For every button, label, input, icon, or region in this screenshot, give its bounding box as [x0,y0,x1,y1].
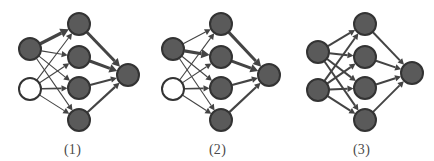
node-layer [307,13,423,131]
edge-arrowhead-icon [61,85,67,91]
edge-arrowhead-icon [208,33,214,40]
edge-arrowhead-icon [66,104,72,111]
node-layer [162,13,280,131]
network-node-hidden-h1 [210,13,232,35]
neural-network-figure: (1) (2) (3) [0,0,434,161]
edge-arrowhead-icon [205,74,212,80]
edge-arrowhead-icon [251,76,258,82]
network-node-output-o1 [117,64,139,86]
network-node-input-i2 [19,78,41,100]
edge-arrowhead-icon [66,33,72,40]
edge-layer [179,29,261,114]
network-edge [373,85,400,112]
edge-arrowhead-icon [61,51,67,57]
edge-arrowhead-icon [205,63,212,69]
edge-arrowhead-icon [110,76,117,82]
network-graph [289,0,434,161]
network-node-hidden-h3 [68,77,90,99]
network-node-hidden-h2 [68,46,90,68]
network-edge [376,61,396,68]
network-node-hidden-h3 [354,77,376,99]
network-node-output-o1 [401,62,423,84]
network-node-hidden-h4 [210,109,232,131]
network-edge [183,95,207,110]
network-edge [87,32,115,61]
network-node-hidden-h3 [210,77,232,99]
network-node-input-i1 [162,38,184,60]
network-edge [232,61,251,68]
network-edge [90,61,110,68]
network-edge [232,80,252,85]
edge-arrowhead-icon [63,75,70,81]
network-node-hidden-h2 [210,46,232,68]
network-edge [40,95,64,110]
network-panel-3: (3) [289,0,434,161]
network-edge [183,32,205,44]
node-layer [19,13,139,131]
network-graph [145,0,290,161]
network-node-hidden-h1 [68,13,90,35]
network-edge [40,33,61,44]
network-node-hidden-h1 [354,13,376,35]
network-edge [373,32,400,60]
network-graph [0,0,145,161]
network-node-hidden-h2 [354,46,376,68]
network-edge [328,96,351,110]
panel-3-caption: (3) [289,143,434,157]
network-edge [329,89,347,90]
edge-arrowhead-icon [394,75,401,81]
panel-2-caption: (2) [145,143,290,157]
network-edge [328,33,350,46]
network-edge [229,87,256,112]
network-edge [376,78,395,84]
network-edge [87,87,115,112]
network-node-hidden-h4 [68,109,90,131]
network-node-input-i1 [307,41,329,63]
edge-arrowhead-icon [63,108,70,114]
edge-arrowhead-icon [63,63,70,69]
network-panel-2: (2) [145,0,290,161]
edge-arrowhead-icon [209,104,215,111]
edge-arrowhead-icon [347,52,353,58]
network-node-input-i1 [19,38,41,60]
network-node-input-i2 [307,79,329,101]
network-edge [90,79,111,85]
edge-arrowhead-icon [205,108,212,114]
edge-layer [325,30,405,114]
network-node-input-i2 [162,78,184,100]
network-node-output-o1 [258,64,280,86]
edge-layer [37,29,121,114]
network-node-hidden-h4 [354,109,376,131]
panel-1-caption: (1) [0,143,145,157]
network-panel-1: (1) [0,0,145,161]
edge-arrowhead-icon [347,86,353,92]
edge-arrowhead-icon [203,85,209,91]
